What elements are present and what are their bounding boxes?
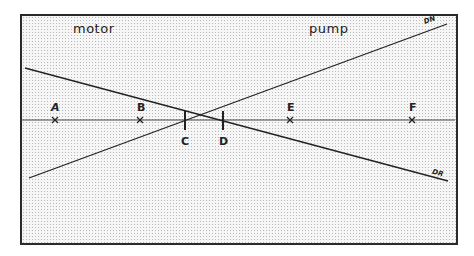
point-label-d: D (219, 136, 228, 147)
line-dr (25, 68, 448, 181)
diagram-lines (0, 0, 474, 256)
point-label-a: A (51, 102, 60, 113)
point-label-b: B (137, 102, 145, 113)
region-label-motor: motor (73, 22, 115, 35)
point-label-c: C (181, 136, 189, 147)
point-label-f: F (409, 102, 417, 113)
line-dn (29, 24, 447, 178)
point-label-e: E (287, 102, 295, 113)
region-label-pump: pump (309, 22, 348, 35)
